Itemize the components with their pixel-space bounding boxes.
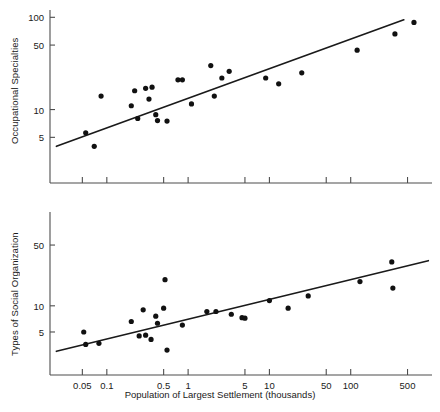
y-axis-label-top: Occupational Specialties: [9, 18, 20, 164]
data-point: [137, 333, 142, 338]
data-point: [141, 307, 146, 312]
data-point: [212, 93, 217, 98]
data-point: [286, 306, 291, 311]
data-point: [357, 279, 362, 284]
regression-line: [56, 261, 428, 352]
data-point: [98, 93, 103, 98]
x-tick-label: 0.05: [73, 380, 92, 391]
data-point: [155, 118, 160, 123]
data-point: [149, 85, 154, 90]
data-point: [213, 309, 218, 314]
data-point: [164, 118, 169, 123]
data-point: [229, 312, 234, 317]
data-point: [143, 333, 148, 338]
data-point: [129, 319, 134, 324]
y-tick-label: 5: [39, 326, 44, 337]
data-point: [153, 314, 158, 319]
data-point: [129, 103, 134, 108]
data-point: [219, 75, 224, 80]
data-point: [83, 342, 88, 347]
data-point: [155, 321, 160, 326]
data-point: [164, 347, 169, 352]
y-tick-label: 10: [33, 104, 44, 115]
plot-canvas: [0, 0, 440, 412]
data-point: [355, 48, 360, 53]
x-tick-label: 500: [400, 380, 416, 391]
y-tick-label: 50: [33, 40, 44, 51]
data-point: [189, 101, 194, 106]
data-point: [153, 112, 158, 117]
data-point: [132, 88, 137, 93]
figure-container: Occupational Specialties Types of Social…: [0, 0, 440, 412]
data-point: [96, 341, 101, 346]
x-tick-label: 100: [343, 380, 359, 391]
y-tick-label: 5: [39, 132, 44, 143]
data-point: [411, 20, 416, 25]
data-point: [306, 293, 311, 298]
y-tick-label: 50: [33, 240, 44, 251]
data-point: [227, 69, 232, 74]
data-point: [148, 337, 153, 342]
data-point: [180, 77, 185, 82]
regression-line: [56, 20, 403, 146]
data-point: [267, 298, 272, 303]
data-point: [276, 81, 281, 86]
x-tick-label: 0.5: [157, 380, 170, 391]
y-axis-label-bottom: Types of Social Organization: [9, 214, 20, 374]
x-tick-label: 1: [185, 380, 190, 391]
chart-social-organization: [50, 212, 432, 375]
x-axis-label: Population of Largest Settlement (thousa…: [0, 389, 440, 400]
data-point: [81, 329, 86, 334]
data-point: [208, 63, 213, 68]
y-tick-label: 100: [28, 12, 44, 23]
data-point: [389, 259, 394, 264]
data-point: [146, 96, 151, 101]
x-tick-label: 0.1: [100, 380, 113, 391]
data-point: [242, 316, 247, 321]
data-point: [204, 309, 209, 314]
x-tick-label: 10: [264, 380, 275, 391]
data-point: [161, 306, 166, 311]
data-point: [263, 75, 268, 80]
data-point: [390, 285, 395, 290]
data-point: [143, 86, 148, 91]
x-tick-label: 5: [242, 380, 247, 391]
data-point: [135, 116, 140, 121]
data-point: [299, 70, 304, 75]
y-tick-label: 10: [33, 300, 44, 311]
x-tick-label: 50: [321, 380, 332, 391]
data-point: [180, 322, 185, 327]
chart-occupational-specialties: [50, 10, 432, 183]
data-point: [83, 130, 88, 135]
data-point: [392, 31, 397, 36]
data-point: [162, 277, 167, 282]
data-point: [92, 144, 97, 149]
